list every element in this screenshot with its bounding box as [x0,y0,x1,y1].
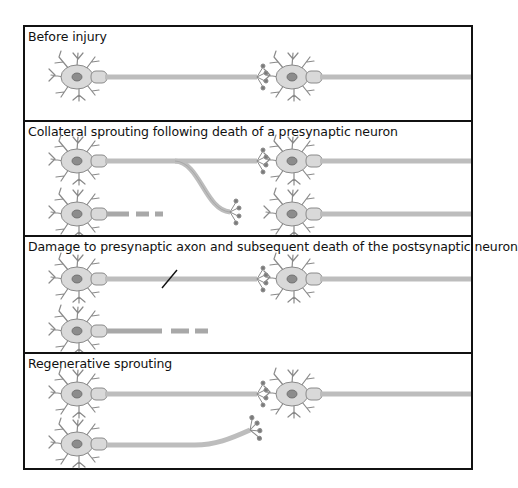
neuron-icon [264,135,471,185]
neuron-icon [264,51,471,101]
degenerating-neuron-icon [49,305,208,354]
neuron-icon [264,253,471,303]
collateral-sprout-icon [175,161,241,225]
neuron-diagram [25,237,471,354]
neuron-diagram [25,122,471,237]
panel-axon-damage: Damage to presynaptic axon and subsequen… [25,235,471,352]
neuron-icon [264,368,471,418]
regenerating-neuron-icon [49,414,265,468]
panel-collateral-sprouting: Collateral sprouting following death of … [25,120,471,235]
neuron-icon [49,253,268,303]
neuron-icon [49,368,268,418]
panel-before-injury: Before injury [25,27,471,120]
neuron-injury-figure: Before injury Collateral sprouting follo… [23,25,473,470]
neuron-icon [49,51,268,101]
panel-regenerative-sprouting: Regenerative sprouting [25,352,471,470]
degenerating-neuron-icon [49,188,163,237]
neuron-diagram [25,27,471,120]
neuron-icon [264,188,471,237]
neuron-diagram [25,354,471,472]
neuron-icon [49,135,268,185]
